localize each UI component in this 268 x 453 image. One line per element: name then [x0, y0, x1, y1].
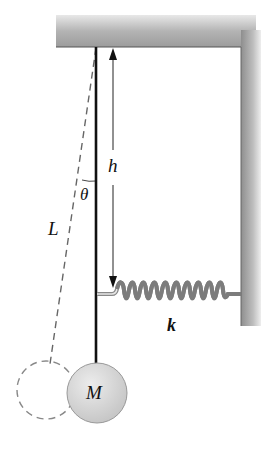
right-wall	[241, 30, 261, 326]
spring-constant-label: k	[167, 316, 176, 334]
diagram-canvas	[0, 0, 268, 453]
ceiling-support	[56, 15, 256, 47]
displaced-pendulum-line	[50, 48, 96, 364]
angle-arc	[82, 180, 96, 181]
mass-label: M	[86, 383, 102, 402]
height-label: h	[108, 156, 118, 175]
pendulum-diagram: h θ L k M	[0, 0, 268, 453]
angle-label: θ	[80, 186, 88, 203]
spring	[97, 282, 241, 298]
length-label: L	[48, 219, 59, 238]
displaced-mass-outline	[17, 361, 75, 419]
